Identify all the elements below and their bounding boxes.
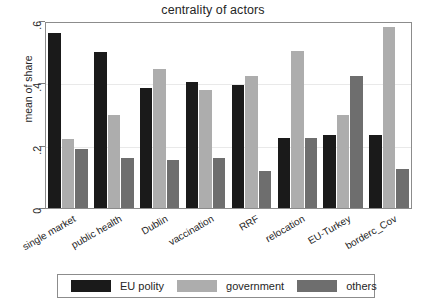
bar [383,27,396,208]
bar [153,69,166,208]
legend-swatch [177,280,217,292]
plot-area [45,22,412,209]
legend-swatch [71,280,111,292]
gridline [46,22,411,23]
bar [48,33,61,208]
chart-legend: EU politygovernmentothers [57,274,375,298]
bar [291,51,304,208]
bar [337,115,350,209]
bar [396,169,409,208]
bar [94,52,107,208]
legend-entry: government [164,275,284,297]
bar [369,135,382,208]
y-tick-label: .2 [31,146,43,172]
y-tick-label: .6 [31,21,43,47]
legend-label: EU polity [120,280,164,292]
legend-label: others [346,280,377,292]
bar [350,76,363,208]
bar [232,85,245,208]
legend-entry: EU polity [58,275,164,297]
legend-label: government [226,280,284,292]
bar [323,135,336,208]
bar [75,149,88,208]
bar [259,171,272,208]
bar [245,76,258,208]
bar [213,158,226,208]
bar-chart-figure: centrality of actors mean of share 0.2.4… [0,0,426,308]
bar [305,138,318,208]
bar [108,115,121,209]
legend-swatch [297,280,337,292]
y-tick-label: .4 [31,83,43,109]
legend-entry: others [284,275,377,297]
bar [121,158,134,208]
bar [62,139,75,208]
chart-title: centrality of actors [0,3,426,17]
bar [186,82,199,208]
bar [167,160,180,208]
bar [140,88,153,208]
bar [199,90,212,208]
bar [278,138,291,208]
